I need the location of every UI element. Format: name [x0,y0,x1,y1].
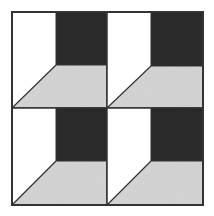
dark-square [56,108,107,161]
quilt-block-2 [107,12,203,108]
dark-square [151,108,203,161]
quilt-block-4 [107,108,203,205]
dark-square [56,12,107,65]
quilt-block-3 [12,108,107,205]
quilt-pattern [0,0,214,216]
quilt-block-1 [12,12,107,108]
dark-square [151,12,203,66]
